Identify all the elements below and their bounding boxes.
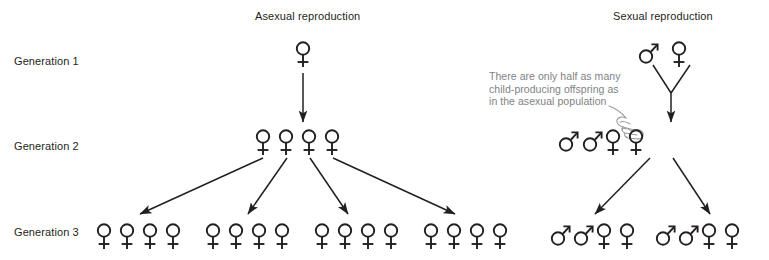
venus-symbol <box>723 222 741 252</box>
mars-symbol <box>655 222 676 252</box>
arrow-asexual-g2-to-g3-4 <box>333 158 455 214</box>
venus-symbol <box>604 128 622 158</box>
arrow-asexual-g2-to-g3-3 <box>310 158 348 214</box>
venus-symbol <box>382 222 400 252</box>
offspring-group <box>550 222 636 252</box>
venus-symbol <box>141 222 159 252</box>
venus-symbol <box>273 222 291 252</box>
venus-symbol <box>204 222 222 252</box>
mars-symbol <box>558 128 579 158</box>
offspring-group <box>422 222 509 252</box>
venus-symbol <box>250 222 268 252</box>
column-title-sexual: Sexual reproduction <box>613 10 713 22</box>
venus-symbol <box>300 128 318 158</box>
venus-symbol <box>595 222 613 252</box>
venus-symbol <box>323 128 341 158</box>
sexual-generation-2-row <box>558 128 645 158</box>
generation-label-3: Generation 3 <box>14 226 79 238</box>
sexual-generation-3-row <box>550 222 741 252</box>
mars-symbol <box>573 222 594 252</box>
offspring-group <box>655 222 741 252</box>
arrow-sexual-g2-to-g3-2 <box>673 158 710 214</box>
venus-symbol <box>445 222 463 252</box>
asexual-generation-1-row <box>294 40 312 70</box>
annotation-line-2: child-producing offspring as <box>489 83 621 96</box>
column-title-asexual: Asexual reproduction <box>255 10 360 22</box>
generation-label-1: Generation 1 <box>14 55 79 67</box>
venus-symbol <box>95 222 113 252</box>
venus-symbol <box>313 222 331 252</box>
venus-symbol <box>336 222 354 252</box>
sexual-generation-1-row <box>638 40 688 70</box>
venus-symbol <box>294 40 312 70</box>
venus-symbol <box>227 222 245 252</box>
venus-symbol <box>670 40 688 70</box>
annotation-callout: There are only half as many child-produc… <box>489 70 621 108</box>
annotation-line-3: in the asexual population <box>489 95 621 108</box>
offspring-group <box>204 222 291 252</box>
mars-symbol <box>582 128 603 158</box>
generation-label-2: Generation 2 <box>14 140 79 152</box>
venus-symbol <box>277 128 295 158</box>
venus-symbol <box>468 222 486 252</box>
mars-symbol <box>550 222 571 252</box>
mars-symbol <box>678 222 699 252</box>
venus-symbol <box>118 222 136 252</box>
arrow-asexual-g2-to-g3-1 <box>140 158 263 214</box>
mars-symbol <box>638 40 659 70</box>
asexual-generation-3-row <box>95 222 509 252</box>
venus-symbol <box>627 128 645 158</box>
connector-lines <box>0 0 769 260</box>
venus-symbol <box>422 222 440 252</box>
annotation-line-1: There are only half as many <box>489 70 621 83</box>
venus-symbol <box>618 222 636 252</box>
reproduction-diagram: Asexual reproduction Sexual reproduction… <box>0 0 769 260</box>
arrow-asexual-g2-to-g3-2 <box>248 158 287 214</box>
venus-symbol <box>254 128 272 158</box>
offspring-group <box>95 222 182 252</box>
venus-symbol <box>491 222 509 252</box>
asexual-generation-2-row <box>254 128 341 158</box>
offspring-group <box>313 222 400 252</box>
arrow-sexual-g2-to-g3-1 <box>595 158 650 214</box>
venus-symbol <box>359 222 377 252</box>
venus-symbol <box>700 222 718 252</box>
venus-symbol <box>164 222 182 252</box>
